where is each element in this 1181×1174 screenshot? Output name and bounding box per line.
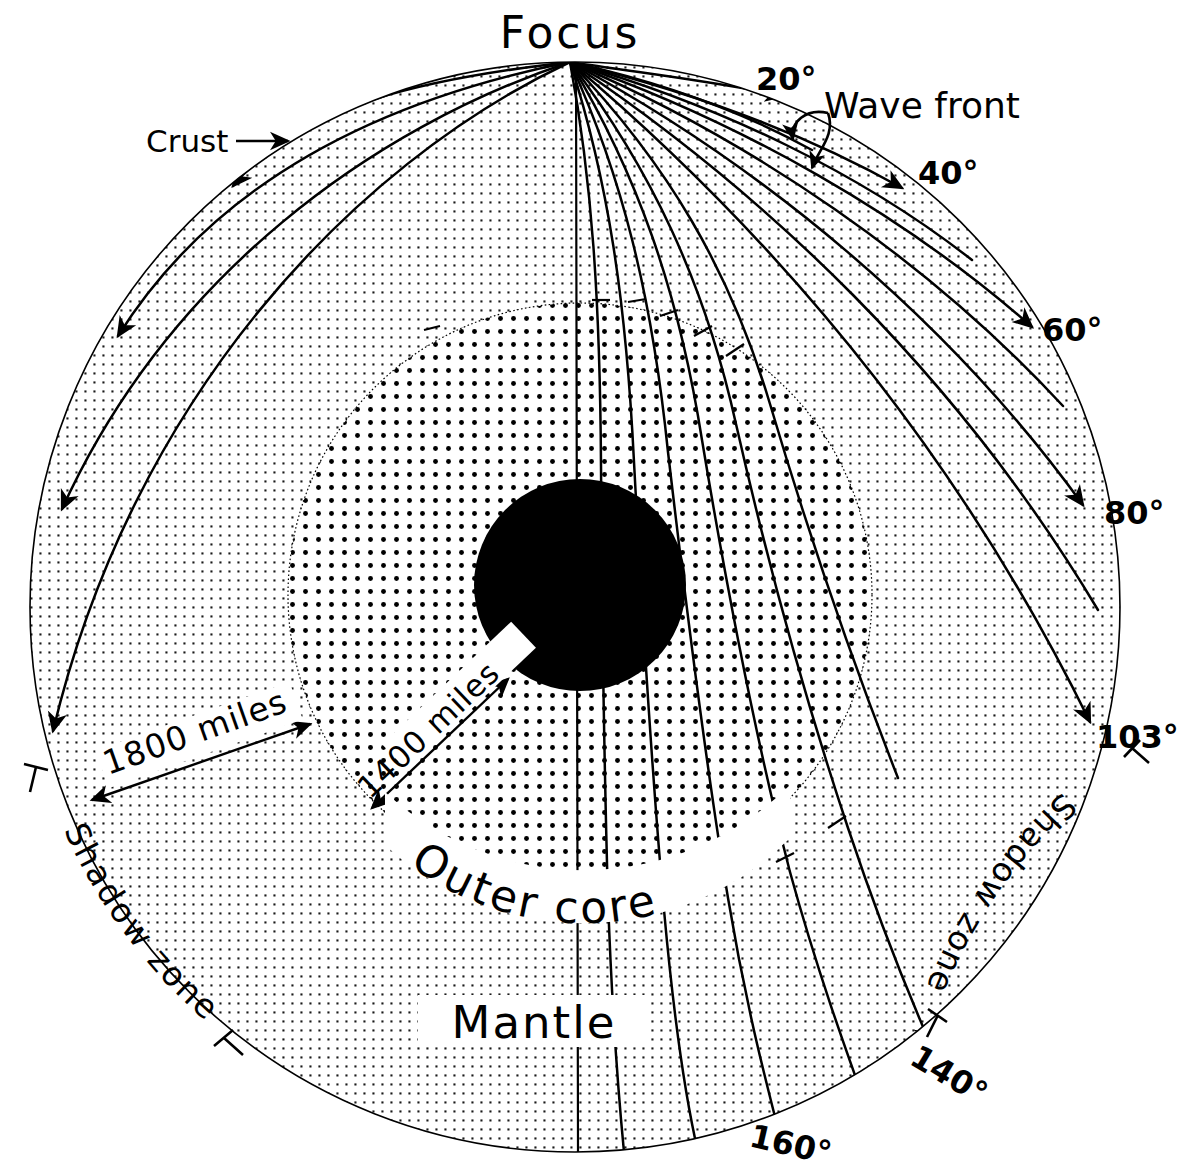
label-wave-front: Wave front bbox=[824, 85, 1020, 126]
label-angle-80: 80° bbox=[1104, 494, 1165, 532]
label-focus: Focus bbox=[500, 7, 641, 58]
label-angle-160: 160° bbox=[746, 1117, 835, 1173]
label-mantle-group: Mantle bbox=[418, 995, 650, 1049]
label-angle-40: 40° bbox=[918, 154, 979, 192]
label-angle-140: 140° bbox=[904, 1037, 995, 1112]
label-angle-20: 20° bbox=[756, 60, 817, 98]
earth-cross-section-svg: Focus Crust Wave front 20° 40° 60° 80° 1… bbox=[0, 0, 1181, 1174]
label-angle-103: 103° bbox=[1096, 718, 1179, 756]
label-mantle: Mantle bbox=[452, 996, 617, 1049]
label-angle-60: 60° bbox=[1042, 311, 1103, 349]
label-crust: Crust bbox=[146, 123, 228, 159]
diagram-canvas: Focus Crust Wave front 20° 40° 60° 80° 1… bbox=[0, 0, 1181, 1174]
